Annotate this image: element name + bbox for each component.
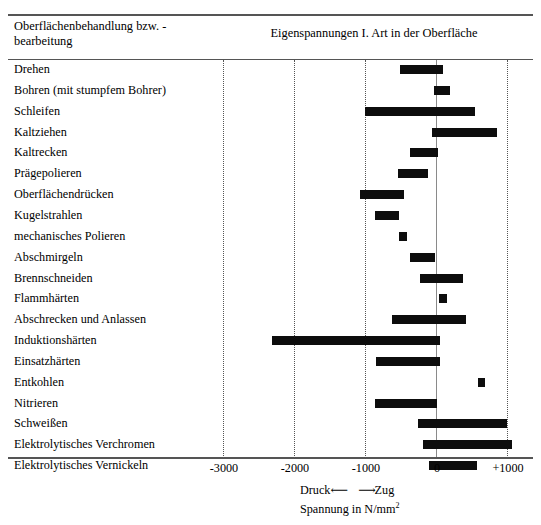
table-row[interactable]: Kaltziehen [0, 123, 541, 144]
table-row[interactable]: Oberflächendrücken [0, 185, 541, 206]
table-row[interactable]: Prägepolieren [0, 164, 541, 185]
table-row[interactable]: Entkohlen [0, 373, 541, 394]
row-label-treatment: Schweißen [14, 416, 67, 431]
table-row[interactable]: Nitrieren [0, 394, 541, 415]
row-label-treatment: Prägepolieren [14, 166, 82, 181]
column-header-treatment: Oberflächenbehandlung bzw. -bearbeitung [14, 19, 204, 48]
stress-range-bar [478, 378, 485, 387]
table-top-rule [8, 14, 533, 16]
stress-range-bar [410, 148, 438, 157]
stress-range-bar [360, 190, 404, 199]
table-row[interactable]: Elektrolytisches Verchromen [0, 435, 541, 456]
row-label-treatment: Bohren (mit stumpfem Bohrer) [14, 83, 166, 98]
stress-range-bar [432, 128, 497, 137]
stress-range-bar [399, 232, 407, 241]
double-arrow-icon: ⟵ ⟶ [330, 483, 374, 497]
table-row[interactable]: Schleifen [0, 102, 541, 123]
row-label-treatment: Kugelstrahlen [14, 208, 82, 223]
caption-unit-label: Spannung in N/mm [300, 502, 395, 516]
axis-tick-label: -2000 [281, 461, 309, 476]
table-row[interactable]: Brennschneiden [0, 269, 541, 290]
stress-range-bar [434, 86, 450, 95]
axis-caption: Druck⟵ ⟶Zug Spannung in N/mm2 [300, 483, 530, 517]
stress-range-bar [420, 274, 463, 283]
row-label-treatment: Brennschneiden [14, 271, 93, 286]
x-axis: -3000-2000-10000+1000 [0, 458, 541, 482]
row-label-treatment: Kaltrecken [14, 145, 67, 160]
row-label-treatment: Abschmirgeln [14, 250, 83, 265]
table-row[interactable]: mechanisches Polieren [0, 227, 541, 248]
stress-range-bar [376, 357, 440, 366]
table-row[interactable]: Kaltrecken [0, 143, 541, 164]
row-label-treatment: Induktionshärten [14, 333, 97, 348]
stress-range-bar [400, 65, 443, 74]
figure-root: Oberflächenbehandlung bzw. -bearbeitung … [0, 0, 541, 525]
table-row[interactable]: Einsatzhärten [0, 352, 541, 373]
table-row[interactable]: Drehen [0, 60, 541, 81]
caption-druck-label: Druck [300, 483, 330, 497]
stress-range-bar [365, 107, 475, 116]
table-row[interactable]: Induktionshärten [0, 331, 541, 352]
row-label-treatment: Nitrieren [14, 396, 58, 411]
caption-direction-line: Druck⟵ ⟶Zug [300, 483, 530, 498]
row-label-treatment: Einsatzhärten [14, 354, 80, 369]
stress-range-bar [439, 294, 447, 303]
row-label-treatment: Drehen [14, 62, 50, 77]
axis-tick-label: 0 [434, 461, 440, 476]
table-row[interactable]: Abschmirgeln [0, 248, 541, 269]
stress-range-bar [398, 169, 429, 178]
stress-range-bar [410, 253, 436, 262]
table-row[interactable]: Schweißen [0, 414, 541, 435]
axis-tick-label: -1000 [352, 461, 380, 476]
column-header-stress: Eigenspannungen I. Art in der Oberfläche [214, 26, 534, 41]
row-label-treatment: Kaltziehen [14, 125, 67, 140]
stress-range-bar [418, 419, 507, 428]
row-label-treatment: Abschrecken und Anlassen [14, 312, 146, 327]
axis-tick-label: -3000 [210, 461, 238, 476]
caption-unit-line: Spannung in N/mm2 [300, 498, 530, 517]
stress-range-bar [272, 336, 440, 345]
row-label-treatment: mechanisches Polieren [14, 229, 125, 244]
caption-zug-label: Zug [375, 483, 395, 497]
row-label-treatment: Schleifen [14, 104, 60, 119]
table-row[interactable]: Flammhärten [0, 289, 541, 310]
row-label-treatment: Oberflächendrücken [14, 187, 113, 202]
table-row[interactable]: Abschrecken und Anlassen [0, 310, 541, 331]
row-label-treatment: Flammhärten [14, 291, 79, 306]
axis-tick-label: +1000 [492, 461, 523, 476]
row-label-treatment: Elektrolytisches Verchromen [14, 437, 155, 452]
row-label-treatment: Entkohlen [14, 375, 64, 390]
caption-unit-exponent: 2 [395, 501, 399, 510]
stress-range-bar [375, 211, 399, 220]
table-row[interactable]: Bohren (mit stumpfem Bohrer) [0, 81, 541, 102]
plot-area: DrehenBohren (mit stumpfem Bohrer)Schlei… [0, 60, 541, 458]
table-row[interactable]: Kugelstrahlen [0, 206, 541, 227]
stress-range-bar [375, 399, 437, 408]
stress-range-bar [392, 315, 466, 324]
stress-range-bar [423, 440, 512, 449]
